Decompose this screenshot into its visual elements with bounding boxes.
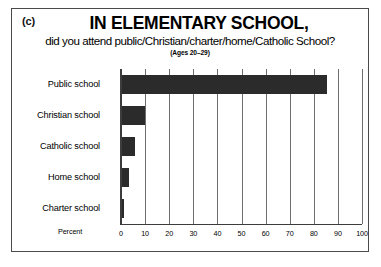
x-tick-label: 60 — [262, 229, 270, 238]
x-tick-label: 30 — [189, 229, 197, 238]
x-tick-label: 80 — [310, 229, 318, 238]
gridline-100 — [362, 69, 363, 224]
x-tick-label: 40 — [213, 229, 221, 238]
bar-plot: 0102030405060708090100Public schoolChris… — [120, 69, 362, 225]
category-label: Home school — [48, 172, 100, 182]
bar — [122, 106, 145, 125]
category-label: Charter school — [42, 203, 100, 213]
x-tick-label: 0 — [119, 229, 123, 238]
category-label: Catholic school — [40, 141, 100, 151]
x-tick-label: 90 — [334, 229, 342, 238]
bar — [122, 168, 129, 187]
bar-row: Catholic school — [121, 131, 362, 162]
bar-row: Public school — [121, 69, 362, 100]
bar — [122, 199, 124, 218]
x-tick-label: 10 — [141, 229, 149, 238]
category-label: Public school — [48, 79, 100, 89]
chart-title: IN ELEMENTARY SCHOOL, — [12, 13, 368, 34]
chart-age-note: (Ages 20–29) — [12, 49, 368, 56]
bar — [122, 137, 135, 156]
bar-row: Christian school — [121, 100, 362, 131]
chart-figure-panel: (c) IN ELEMENTARY SCHOOL, did you attend… — [11, 8, 369, 252]
bar-row: Home school — [121, 162, 362, 193]
chart-subtitle: did you attend public/Christian/charter/… — [12, 34, 368, 47]
bar — [122, 75, 327, 94]
bar-row: Charter school — [121, 193, 362, 224]
x-axis-label: Percent — [58, 227, 82, 236]
category-label: Christian school — [37, 110, 100, 120]
x-tick-label: 70 — [286, 229, 294, 238]
x-tick-label: 50 — [238, 229, 246, 238]
plot-area: Percent 0102030405060708090100Public sch… — [12, 67, 368, 253]
x-tick-label: 20 — [165, 229, 173, 238]
x-tick-label: 100 — [356, 229, 368, 238]
